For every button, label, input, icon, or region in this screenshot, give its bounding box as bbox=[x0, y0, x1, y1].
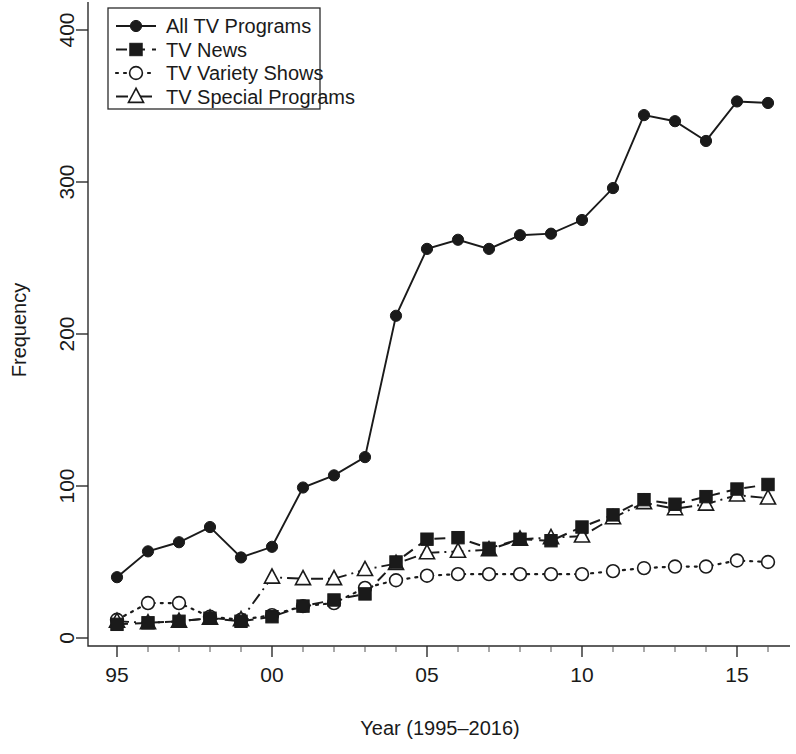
data-point-marker bbox=[483, 243, 494, 254]
legend-marker-sample bbox=[130, 67, 143, 80]
data-point-marker bbox=[142, 597, 155, 610]
data-point-marker bbox=[576, 568, 589, 581]
chart-figure: 0100200300400 9500051015 All TV Programs… bbox=[0, 0, 796, 754]
chart-legend: All TV ProgramsTV NewsTV Variety ShowsTV… bbox=[108, 8, 355, 109]
data-point-marker bbox=[328, 594, 340, 606]
data-point-marker bbox=[731, 554, 744, 567]
legend-label: All TV Programs bbox=[166, 15, 311, 37]
data-point-marker bbox=[390, 556, 402, 568]
data-point-marker bbox=[669, 116, 680, 127]
data-point-marker bbox=[204, 612, 216, 624]
data-point-marker bbox=[266, 541, 277, 552]
x-axis-title: Year (1995–2016) bbox=[360, 717, 519, 739]
y-axis-title: Frequency bbox=[8, 283, 30, 378]
data-point-marker bbox=[173, 537, 184, 548]
legend-label: TV Variety Shows bbox=[166, 62, 323, 84]
data-point-marker bbox=[235, 615, 247, 627]
y-axis-tick-label: 300 bbox=[55, 164, 78, 199]
data-point-marker bbox=[514, 230, 525, 241]
legend-label: TV News bbox=[166, 39, 247, 61]
data-point-marker bbox=[638, 110, 649, 121]
data-point-marker bbox=[700, 490, 712, 502]
data-point-marker bbox=[576, 521, 588, 533]
data-point-marker bbox=[452, 531, 464, 543]
data-point-marker bbox=[514, 533, 526, 545]
data-point-marker bbox=[576, 214, 587, 225]
data-point-marker bbox=[173, 597, 186, 610]
legend-marker-sample bbox=[130, 43, 142, 55]
x-axis-tick-label: 95 bbox=[105, 663, 128, 686]
data-point-marker bbox=[483, 568, 496, 581]
data-point-marker bbox=[545, 568, 558, 581]
data-point-marker bbox=[514, 568, 527, 581]
data-point-marker bbox=[669, 498, 681, 510]
line-chart-canvas: 0100200300400 9500051015 All TV Programs… bbox=[0, 0, 796, 754]
data-point-marker bbox=[607, 565, 620, 578]
data-point-marker bbox=[638, 562, 651, 575]
data-point-marker bbox=[607, 509, 619, 521]
y-axis-tick-label: 0 bbox=[55, 632, 78, 644]
data-point-marker bbox=[297, 482, 308, 493]
data-point-marker bbox=[638, 493, 650, 505]
data-point-marker bbox=[483, 542, 495, 554]
x-axis-tick-label: 00 bbox=[260, 663, 283, 686]
data-point-marker bbox=[700, 135, 711, 146]
data-point-marker bbox=[173, 615, 185, 627]
data-point-marker bbox=[700, 560, 713, 573]
data-point-marker bbox=[142, 617, 154, 629]
data-point-marker bbox=[452, 568, 465, 581]
data-point-marker bbox=[452, 234, 463, 245]
legend-marker-sample bbox=[130, 20, 141, 31]
data-point-marker bbox=[359, 452, 370, 463]
y-axis-tick-label: 100 bbox=[55, 468, 78, 503]
x-axis-tick-label: 10 bbox=[570, 663, 593, 686]
y-axis-tick-label: 400 bbox=[55, 12, 78, 47]
data-point-marker bbox=[142, 546, 153, 557]
data-point-marker bbox=[762, 478, 774, 490]
data-point-marker bbox=[669, 560, 682, 573]
data-point-marker bbox=[297, 600, 309, 612]
y-axis-tick-label: 200 bbox=[55, 316, 78, 351]
data-point-marker bbox=[111, 572, 122, 583]
x-axis-tick-label: 15 bbox=[725, 663, 748, 686]
data-point-marker bbox=[421, 569, 434, 582]
data-point-marker bbox=[204, 521, 215, 532]
data-point-marker bbox=[545, 228, 556, 239]
data-point-marker bbox=[762, 97, 773, 108]
data-point-marker bbox=[607, 182, 618, 193]
data-point-marker bbox=[390, 574, 403, 587]
data-point-marker bbox=[390, 310, 401, 321]
data-point-marker bbox=[328, 470, 339, 481]
legend-label: TV Special Programs bbox=[166, 86, 355, 108]
data-point-marker bbox=[731, 483, 743, 495]
data-point-marker bbox=[545, 535, 557, 547]
data-point-marker bbox=[266, 611, 278, 623]
x-axis-tick-label: 05 bbox=[415, 663, 438, 686]
data-point-marker bbox=[235, 552, 246, 563]
chart-background bbox=[0, 0, 796, 754]
data-point-marker bbox=[359, 588, 371, 600]
data-point-marker bbox=[731, 96, 742, 107]
data-point-marker bbox=[762, 556, 775, 569]
data-point-marker bbox=[111, 618, 123, 630]
data-point-marker bbox=[421, 533, 433, 545]
data-point-marker bbox=[421, 243, 432, 254]
